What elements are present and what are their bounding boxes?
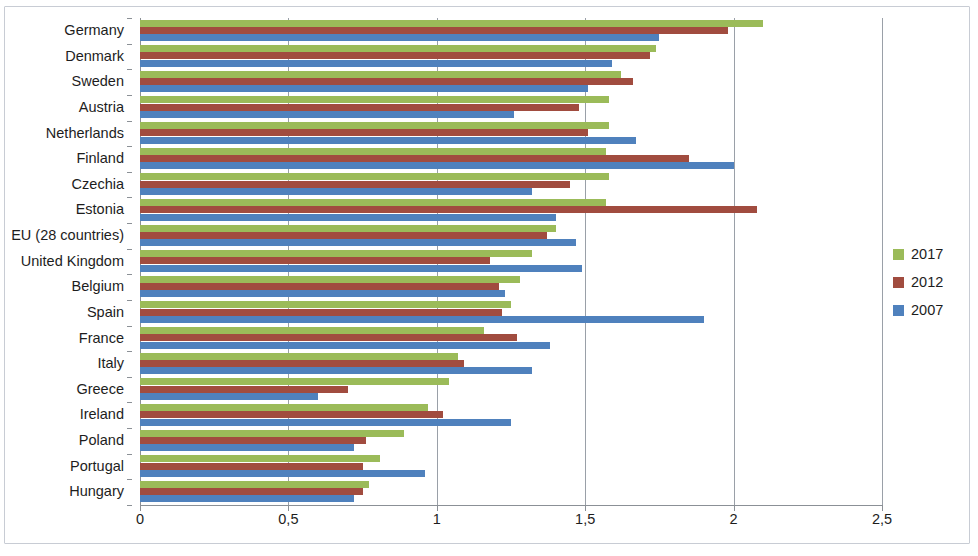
bar-2012 (140, 129, 588, 136)
bar-2017 (140, 71, 621, 78)
bar-2012 (140, 78, 633, 85)
y-axis-tick-label: Germany (64, 18, 124, 44)
bar-2017 (140, 122, 609, 129)
y-axis-tick-label: Finland (76, 146, 124, 172)
bar-2017 (140, 455, 380, 462)
bar-group (140, 428, 882, 454)
y-axis-tick-label: Czechia (72, 172, 124, 198)
bar-2007 (140, 137, 636, 144)
bar-2017 (140, 199, 606, 206)
bar-group (140, 326, 882, 352)
y-axis-tick (127, 121, 132, 122)
legend-item-2012[interactable]: 2012 (893, 268, 973, 296)
bar-group (140, 274, 882, 300)
y-axis-tick (127, 172, 132, 173)
bar-group (140, 146, 882, 172)
bar-group (140, 377, 882, 403)
y-axis-tick (127, 377, 132, 378)
x-axis-tick-label: 1,5 (575, 511, 595, 527)
y-axis-tick-label: France (79, 326, 124, 352)
bar-group (140, 18, 882, 44)
y-axis-tick (127, 274, 132, 275)
y-axis-tick-label: Portugal (70, 454, 124, 480)
bar-2012 (140, 309, 502, 316)
chart-legend: 201720122007 (893, 240, 973, 324)
bar-2012 (140, 488, 363, 495)
y-axis-tick-label: Belgium (72, 274, 124, 300)
x-axis-tick-label: 2,5 (872, 511, 892, 527)
bar-2007 (140, 265, 582, 272)
y-axis-tick-label: Ireland (80, 402, 124, 428)
legend-swatch-icon (893, 305, 904, 316)
bar-2012 (140, 386, 348, 393)
bar-chart: GermanyDenmarkSwedenAustriaNetherlandsFi… (0, 0, 978, 556)
plot-area (140, 18, 882, 505)
bar-group (140, 454, 882, 480)
bar-2012 (140, 27, 728, 34)
bar-2007 (140, 188, 532, 195)
y-axis-tick (127, 18, 132, 19)
bar-2012 (140, 437, 366, 444)
y-axis-tick (127, 146, 132, 147)
legend-label: 2012 (911, 274, 943, 290)
bar-2017 (140, 353, 458, 360)
bar-2017 (140, 45, 656, 52)
bar-2017 (140, 327, 484, 334)
bar-2007 (140, 290, 505, 297)
bar-2017 (140, 225, 556, 232)
bar-2007 (140, 85, 588, 92)
legend-item-2007[interactable]: 2007 (893, 296, 973, 324)
bar-2012 (140, 232, 547, 239)
y-axis-tick (127, 402, 132, 403)
y-axis-tick (127, 95, 132, 96)
x-axis-tick-label: 2 (730, 511, 738, 527)
y-axis-tick (127, 300, 132, 301)
bar-2012 (140, 411, 443, 418)
bar-2007 (140, 367, 532, 374)
x-gridline (882, 18, 883, 505)
bar-2017 (140, 378, 449, 385)
y-axis-tick (127, 69, 132, 70)
y-axis-tick (127, 505, 132, 506)
bar-2007 (140, 393, 318, 400)
bar-2012 (140, 257, 490, 264)
x-axis-line (140, 505, 882, 506)
bar-2012 (140, 206, 757, 213)
x-axis-tick-label: 0 (136, 511, 144, 527)
x-axis-labels: 00,511,522,5 (0, 511, 978, 541)
bar-2012 (140, 463, 363, 470)
bar-group (140, 351, 882, 377)
bar-2012 (140, 181, 570, 188)
bar-2007 (140, 162, 734, 169)
bar-2007 (140, 342, 550, 349)
y-axis-tick (127, 326, 132, 327)
x-axis-tick-label: 1 (433, 511, 441, 527)
y-axis-tick-label: Austria (79, 95, 124, 121)
bar-group (140, 197, 882, 223)
bar-group (140, 249, 882, 275)
legend-item-2017[interactable]: 2017 (893, 240, 973, 268)
y-axis-tick-label: Spain (87, 300, 124, 326)
bar-2017 (140, 481, 369, 488)
y-axis-tick-label: Poland (79, 428, 124, 454)
y-axis-tick-label: Netherlands (46, 121, 124, 147)
bar-group (140, 172, 882, 198)
bar-2007 (140, 60, 612, 67)
bar-2012 (140, 283, 499, 290)
y-axis-tick-label: United Kingdom (21, 249, 124, 275)
bar-2007 (140, 495, 354, 502)
bar-2012 (140, 360, 464, 367)
bar-2017 (140, 173, 609, 180)
bar-2017 (140, 276, 520, 283)
legend-label: 2017 (911, 246, 943, 262)
bar-2012 (140, 334, 517, 341)
bar-2017 (140, 430, 404, 437)
y-axis-tick-label: Italy (97, 351, 124, 377)
y-axis-tick-label: EU (28 countries) (11, 223, 124, 249)
y-axis-tick (127, 454, 132, 455)
bar-2007 (140, 34, 659, 41)
bar-2012 (140, 52, 650, 59)
bar-group (140, 223, 882, 249)
legend-label: 2007 (911, 302, 943, 318)
bar-2007 (140, 214, 556, 221)
